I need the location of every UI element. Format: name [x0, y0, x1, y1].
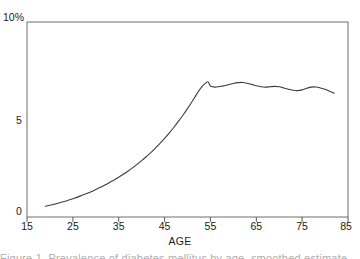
x-tick-label-35: 35 — [113, 221, 125, 232]
data-series-line — [45, 82, 334, 207]
x-tick-label-85: 85 — [340, 221, 352, 232]
x-tick-label-75: 75 — [296, 221, 308, 232]
x-tick-label-55: 55 — [205, 221, 217, 232]
y-axis-label-mid: 5 — [16, 115, 22, 126]
x-axis-title: AGE — [0, 236, 360, 247]
x-tick-label-45: 45 — [159, 221, 171, 232]
x-tick-label-15: 15 — [21, 221, 33, 232]
plot-frame — [27, 22, 348, 217]
figure-caption-sliver: Figure 1. Prevalence of diabetes mellitu… — [0, 252, 360, 259]
y-axis-label-top: 10% — [3, 12, 24, 23]
x-tick-label-25: 25 — [67, 221, 79, 232]
y-axis-label-bottom: 0 — [16, 206, 22, 217]
x-tick-label-65: 65 — [250, 221, 262, 232]
chart-figure: 10% 5 0 15 25 35 45 55 65 75 85 AGE Figu… — [0, 0, 360, 259]
